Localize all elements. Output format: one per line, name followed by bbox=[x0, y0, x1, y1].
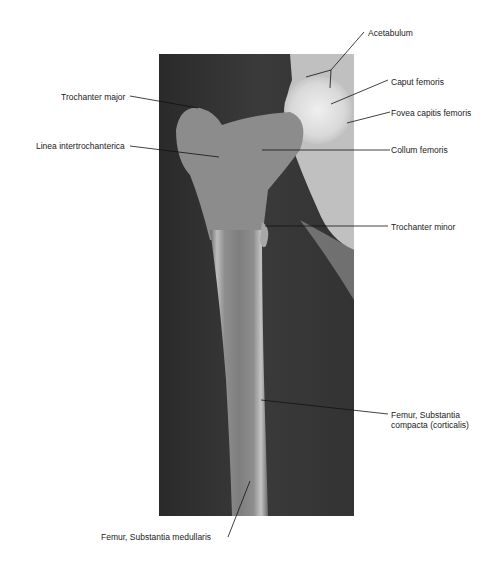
label-acetabulum: Acetabulum bbox=[368, 28, 413, 38]
label-fovea-capitis-femoris: Fovea capitis femoris bbox=[391, 108, 471, 118]
label-linea-intertrochanterica: Linea intertrochanterica bbox=[36, 141, 125, 151]
label-substantia-compacta: Femur, Substantia compacta (corticalis) bbox=[391, 410, 469, 430]
label-trochanter-major: Trochanter major bbox=[61, 92, 125, 102]
label-caput-femoris: Caput femoris bbox=[391, 77, 444, 87]
label-trochanter-minor: Trochanter minor bbox=[391, 222, 455, 232]
label-substantia-medullaris: Femur, Substantia medullaris bbox=[101, 532, 211, 542]
label-compacta-line1: Femur, Substantia bbox=[391, 410, 469, 420]
label-compacta-line2: compacta (corticalis) bbox=[391, 420, 469, 430]
label-collum-femoris: Collum femoris bbox=[391, 145, 448, 155]
